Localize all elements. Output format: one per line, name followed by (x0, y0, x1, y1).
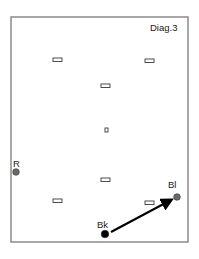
diagram-canvas: Diag.3 RBlBk (0, 0, 199, 259)
diagram-frame (11, 17, 188, 242)
point-bk-label: Bk (97, 219, 108, 230)
rect-marker-icon (101, 178, 110, 182)
point-r-dot-icon (13, 169, 20, 176)
marker-group (53, 58, 154, 205)
rect-marker-icon (53, 199, 62, 203)
diagram-title: Diag.3 (150, 22, 177, 33)
arrow-bk-to-bl (111, 200, 171, 232)
point-bl-dot-icon (174, 194, 181, 201)
rect-marker-icon (105, 128, 108, 132)
point-bl-label: Bl (168, 179, 176, 190)
rect-marker-icon (145, 59, 154, 63)
point-r-label: R (13, 158, 20, 169)
rect-marker-icon (53, 58, 62, 62)
rect-marker-icon (145, 201, 154, 205)
point-bk-dot-icon (101, 230, 109, 238)
point-group: RBlBk (13, 158, 181, 238)
rect-marker-icon (101, 84, 110, 88)
